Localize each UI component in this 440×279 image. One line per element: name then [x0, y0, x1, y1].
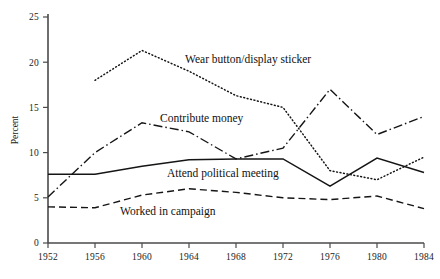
series-annotation-label: Attend political meeting	[167, 167, 279, 180]
chart-axes	[48, 14, 424, 243]
x-tick-label: 1968	[226, 252, 246, 262]
series-annotation-label: Contribute money	[160, 112, 244, 125]
y-axis-ticks: 0510152025	[29, 12, 48, 248]
x-tick-label: 1964	[179, 252, 199, 262]
x-tick-label: 1976	[320, 252, 340, 262]
y-tick-label: 5	[34, 193, 39, 203]
y-tick-label: 0	[34, 238, 39, 248]
x-tick-label: 1952	[38, 252, 58, 262]
series-annotation-label: Wear button/display sticker	[185, 53, 311, 66]
x-tick-label: 1956	[85, 252, 105, 262]
y-tick-label: 20	[29, 58, 39, 68]
line-chart: 0510152025 19521956196019641968197219761…	[0, 0, 440, 279]
series-annotation-label: Worked in campaign	[120, 205, 216, 218]
x-tick-label: 1960	[132, 252, 152, 262]
series-line	[48, 89, 424, 197]
x-tick-label: 1972	[273, 252, 293, 262]
y-tick-label: 10	[29, 148, 39, 158]
y-tick-label: 25	[29, 12, 39, 22]
chart-series-group	[48, 50, 424, 208]
x-tick-label: 1984	[414, 252, 434, 262]
x-tick-label: 1980	[367, 252, 387, 262]
series-line	[95, 50, 424, 179]
y-tick-label: 15	[29, 103, 39, 113]
series-annotations: Wear button/display stickerContribute mo…	[120, 53, 311, 218]
series-line	[48, 189, 424, 209]
chart-container: 0510152025 19521956196019641968197219761…	[0, 0, 440, 279]
x-axis-ticks: 195219561960196419681972197619801984	[38, 243, 434, 262]
y-axis-title: Percent	[10, 115, 20, 144]
